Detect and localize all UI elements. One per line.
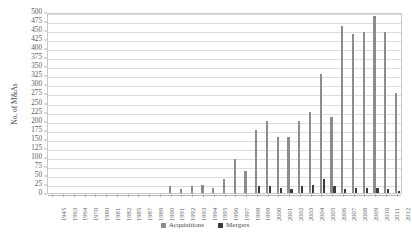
x-axis-tick-mark	[117, 194, 118, 197]
bar-mergers	[387, 189, 389, 193]
x-axis-tick-label: 1993	[201, 195, 208, 221]
bar-acquisitions	[201, 185, 203, 193]
bar-acquisitions	[298, 121, 300, 193]
x-axis-tick-label: 2002	[298, 195, 305, 221]
bar-acquisitions	[244, 171, 246, 193]
bar-mergers	[258, 186, 260, 193]
x-axis-tick-mark	[171, 194, 172, 197]
y-axis-tick-label: 175	[31, 127, 42, 134]
x-axis-tick-label: 1996	[233, 195, 240, 221]
y-axis-tick-label: 475	[31, 18, 42, 25]
x-axis-tick-mark	[289, 194, 290, 197]
bar-mergers	[366, 188, 368, 193]
x-axis-tick-label: 2000	[276, 195, 283, 221]
bar-group	[371, 14, 382, 193]
legend-item[interactable]: Mergers	[218, 222, 249, 229]
bar-series-container	[48, 14, 401, 193]
x-axis-tick-mark	[225, 194, 226, 197]
x-axis-tick-mark	[321, 194, 322, 197]
x-axis-tick-label: 1980	[104, 195, 111, 221]
bar-group	[102, 14, 113, 193]
x-axis-tick-label: 2005	[330, 195, 337, 221]
bar-group	[70, 14, 81, 193]
y-axis-tick-label: 325	[31, 73, 42, 80]
y-axis-tick-label: 450	[31, 27, 42, 34]
x-axis-tick-label: 1987	[147, 195, 154, 221]
x-axis-tick-label: 2003	[308, 195, 315, 221]
x-axis-tick-mark	[386, 194, 387, 197]
y-axis-tick-label: 125	[31, 145, 42, 152]
bar-mergers	[355, 188, 357, 193]
y-axis-tick-label: 275	[31, 91, 42, 98]
x-axis-tick-label: 1981	[115, 195, 122, 221]
bar-group	[48, 14, 59, 193]
x-axis-tick-label: 1990	[169, 195, 176, 221]
x-axis-tick-label: 1989	[158, 195, 165, 221]
bar-mergers	[290, 189, 292, 193]
bar-acquisitions	[309, 112, 311, 193]
y-axis-tick-label: 75	[35, 163, 42, 170]
bar-group	[360, 14, 371, 193]
y-axis-title: No. of M&As	[10, 59, 19, 149]
bar-group	[220, 14, 231, 193]
bar-acquisitions	[277, 137, 279, 193]
x-axis-tick-mark	[278, 194, 279, 197]
x-axis-tick-label: 2009	[373, 195, 380, 221]
bar-mergers	[301, 186, 303, 193]
bar-group	[381, 14, 392, 193]
x-axis-tick-mark	[300, 194, 301, 197]
x-axis-tick-label: 1998	[255, 195, 262, 221]
bar-group	[328, 14, 339, 193]
x-axis-tick-label: 2007	[351, 195, 358, 221]
plot-area	[47, 13, 402, 194]
x-axis-tick-label: 1995	[222, 195, 229, 221]
x-axis-tick-label: 2012	[405, 195, 412, 221]
x-axis-tick-mark	[343, 194, 344, 197]
x-axis-tick-mark	[246, 194, 247, 197]
bar-acquisitions	[169, 186, 171, 193]
x-axis-tick-mark	[311, 194, 312, 197]
x-axis-tick-label: 1991	[179, 195, 186, 221]
y-axis-tick-label: 350	[31, 64, 42, 71]
legend-item[interactable]: Acquisitions	[161, 222, 204, 229]
legend-swatch-icon	[161, 223, 166, 228]
bar-group	[134, 14, 145, 193]
x-axis-tick-label: 2001	[287, 195, 294, 221]
x-axis-tick-label: 1963	[72, 195, 79, 221]
bar-mergers	[376, 188, 378, 193]
y-axis-tick-label: 25	[35, 181, 42, 188]
x-axis-tick-label: 1970	[93, 195, 100, 221]
bar-mergers	[344, 189, 346, 193]
x-axis-tick-mark	[364, 194, 365, 197]
x-axis-tick-mark	[106, 194, 107, 197]
bar-group	[242, 14, 253, 193]
x-axis-tick-label: 1982	[126, 195, 133, 221]
bar-acquisitions	[320, 74, 322, 193]
bar-acquisitions	[384, 32, 386, 193]
bar-group	[338, 14, 349, 193]
bar-group	[166, 14, 177, 193]
y-axis-tick-label: 250	[31, 100, 42, 107]
bar-group	[59, 14, 70, 193]
bar-acquisitions	[363, 32, 365, 193]
bar-acquisitions	[373, 16, 375, 193]
x-axis-tick-mark	[181, 194, 182, 197]
bar-acquisitions	[352, 34, 354, 193]
x-axis-tick-label: 2010	[384, 195, 391, 221]
bar-group	[80, 14, 91, 193]
x-axis-tick-mark	[332, 194, 333, 197]
x-axis-tick-mark	[397, 194, 398, 197]
bar-group	[156, 14, 167, 193]
y-axis-tick-label: 200	[31, 118, 42, 125]
bar-group	[349, 14, 360, 193]
x-axis-tick-label: 2011	[394, 195, 401, 221]
x-axis-tick-mark	[235, 194, 236, 197]
x-axis-tick-mark	[74, 194, 75, 197]
y-axis-tick-label: 50	[35, 172, 42, 179]
bar-acquisitions	[330, 117, 332, 193]
bar-group	[199, 14, 210, 193]
x-axis-tick-mark	[85, 194, 86, 197]
y-axis-tick-label: 100	[31, 154, 42, 161]
x-axis-tick-label: 2004	[319, 195, 326, 221]
